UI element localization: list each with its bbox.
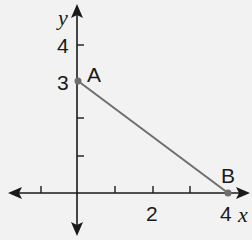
segment-ab	[78, 81, 228, 193]
coordinate-plane: y x 4 3 2 4 A B	[0, 0, 252, 240]
point-a	[75, 78, 82, 85]
y-axis-label: y	[56, 5, 68, 30]
y-tick-label-3: 3	[57, 71, 69, 94]
x-axis	[8, 186, 250, 199]
point-a-label: A	[87, 63, 101, 86]
y-tick-label-4: 4	[57, 34, 69, 57]
x-tick-label-2: 2	[146, 202, 158, 225]
x-axis-label: x	[237, 202, 248, 227]
x-tick-label-4: 4	[220, 202, 232, 225]
point-b	[225, 190, 232, 197]
y-axis	[71, 4, 84, 236]
point-b-label: B	[221, 164, 235, 187]
